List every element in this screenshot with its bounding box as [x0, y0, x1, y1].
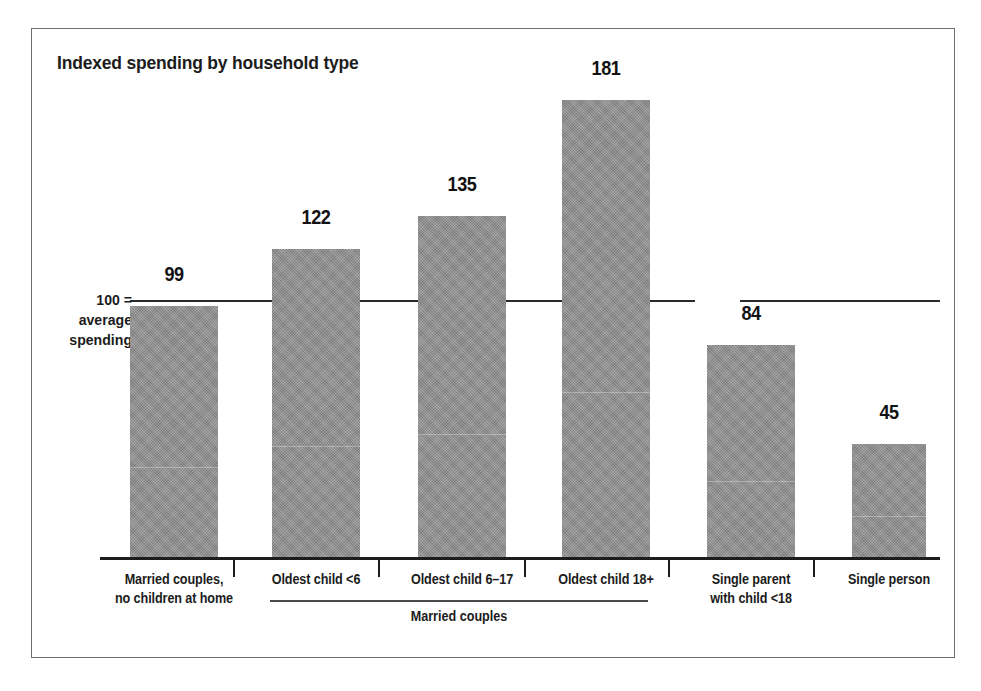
group-bracket-label: Married couples — [289, 608, 629, 624]
bar-value-label: 122 — [278, 205, 354, 229]
axis-note-line-1: 100 = — [46, 290, 132, 310]
bar-single-person — [852, 444, 926, 557]
category-label-single-person: Single person — [826, 570, 952, 589]
category-label-married-no-children: Married couples, no children at home — [111, 570, 237, 608]
axis-note-line-2: average — [46, 310, 132, 330]
axis-annotation-100-average-spending: 100 = average spending — [46, 290, 132, 350]
bar-oldest-child-18-plus — [562, 100, 650, 557]
bar-single-parent-child-under-18 — [707, 345, 795, 557]
category-label-oldest-child-18-plus: Oldest child 18+ — [543, 570, 669, 589]
category-label-line-1: Oldest child 6–17 — [399, 570, 525, 589]
bar-married-no-children — [130, 306, 218, 557]
bar-value-label: 45 — [857, 400, 921, 424]
bar-oldest-child-under-6 — [272, 249, 360, 557]
axis-note-line-3: spending — [46, 330, 132, 350]
category-label-line-1: Single person — [826, 570, 952, 589]
plot-area: 100 = average spending 99 122 135 181 84… — [0, 0, 981, 691]
category-label-single-parent: Single parent with child <18 — [688, 570, 814, 608]
bar-value-label: 84 — [713, 301, 789, 325]
chart-page: Indexed spending by household type 100 =… — [0, 0, 981, 691]
category-label-line-1: Oldest child 18+ — [543, 570, 669, 589]
category-label-oldest-child-under-6: Oldest child <6 — [253, 570, 379, 589]
bar-value-label: 181 — [568, 56, 644, 80]
bar-value-label: 99 — [136, 262, 212, 286]
category-label-oldest-child-6-17: Oldest child 6–17 — [399, 570, 525, 589]
category-label-line-1: Oldest child <6 — [253, 570, 379, 589]
bar-oldest-child-6-17 — [418, 216, 506, 557]
bar-value-label: 135 — [424, 172, 500, 196]
category-label-line-1: Married couples, — [111, 570, 237, 589]
category-label-line-1: Single parent — [688, 570, 814, 589]
category-label-line-2: no children at home — [111, 589, 237, 608]
category-label-line-2: with child <18 — [688, 589, 814, 608]
group-bracket-line — [270, 600, 648, 602]
